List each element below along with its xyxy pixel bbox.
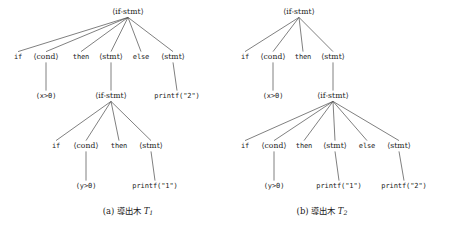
tree-node-t2-m6: ⟨if-stmt⟩ — [317, 92, 349, 100]
tree-node-t2-m7: if — [241, 143, 249, 150]
tree-node-t2-m4: ⟨stmt⟩ — [321, 53, 345, 61]
tree-node-t2-m12: ⟨stmt⟩ — [387, 142, 411, 150]
tree-edge — [333, 101, 399, 140]
tree-node-t2-m3: then — [295, 54, 311, 61]
tree-node-t2-m13: (y>0) — [264, 183, 285, 190]
tree-edge — [56, 101, 111, 140]
tree-node-t1-n9: printf("2") — [154, 93, 199, 100]
figure-caption-a: (a) 導出木 T1 — [103, 207, 153, 216]
tree-edge — [399, 151, 404, 180]
tree-node-t1-n5: else — [133, 54, 149, 61]
tree-node-t1-n10: if — [52, 143, 60, 150]
tree-edge — [245, 17, 299, 51]
tree-node-t2-m8: ⟨cond⟩ — [261, 142, 286, 150]
tree-node-t1-n6: ⟨stmt⟩ — [161, 53, 185, 61]
tree-edge — [245, 101, 333, 140]
tree-edge — [299, 17, 303, 51]
tree-edge — [111, 101, 151, 140]
tree-edge — [128, 17, 173, 51]
tree-node-t2-m0: ⟨if-stmt⟩ — [283, 8, 315, 16]
tree-edge — [111, 101, 119, 140]
tree-edge — [18, 17, 128, 51]
tree-node-t1-n12: then — [111, 143, 127, 150]
caption-prefix: (a) — [103, 206, 117, 216]
tree-node-t2-m10: ⟨stmt⟩ — [323, 142, 347, 150]
tree-edge — [86, 101, 111, 140]
tree-node-t2-m9: then — [296, 143, 312, 150]
tree-node-t1-n4: ⟨stmt⟩ — [99, 53, 123, 61]
tree-node-t1-n8: ⟨if-stmt⟩ — [95, 92, 127, 100]
tree-node-t2-m14: printf("1") — [316, 183, 361, 190]
tree-node-t1-n7: (x>0) — [36, 93, 57, 100]
tree-node-t1-n3: then — [73, 54, 89, 61]
tree-node-t1-n13: ⟨stmt⟩ — [139, 142, 163, 150]
caption-text: 導出木 — [311, 206, 338, 216]
caption-subscript: 2 — [343, 209, 347, 216]
tree-edge — [335, 151, 339, 180]
tree-edge — [128, 17, 141, 51]
caption-prefix: (b) — [297, 206, 312, 216]
tree-node-t2-m5: (x>0) — [263, 93, 284, 100]
figure-caption-b: (b) 導出木 T2 — [297, 207, 348, 216]
tree-node-t1-n15: printf("1") — [132, 183, 177, 190]
tree-edge — [333, 101, 335, 140]
caption-subscript: 1 — [149, 209, 153, 216]
tree-edge — [111, 17, 128, 51]
tree-edge — [304, 101, 333, 140]
tree-node-t2-m11: else — [359, 143, 375, 150]
tree-edge — [273, 17, 299, 51]
tree-node-t1-n2: ⟨cond⟩ — [33, 53, 58, 61]
tree-edge — [333, 101, 367, 140]
tree-edge — [274, 101, 333, 140]
tree-node-t2-m1: if — [241, 54, 249, 61]
tree-node-t1-n11: ⟨cond⟩ — [73, 142, 98, 150]
tree-node-t2-m2: ⟨cond⟩ — [260, 53, 285, 61]
derivation-tree-figure: ⟨if-stmt⟩if⟨cond⟩then⟨stmt⟩else⟨stmt⟩(x>… — [0, 0, 454, 231]
tree-edges-layer — [0, 0, 454, 231]
tree-node-t2-m15: printf("2") — [381, 183, 426, 190]
caption-text: 導出木 — [117, 206, 144, 216]
tree-edge — [173, 62, 177, 90]
tree-edge — [151, 151, 155, 180]
tree-node-t1-n1: if — [14, 54, 22, 61]
tree-edge — [81, 17, 128, 51]
tree-edge — [46, 17, 128, 51]
tree-node-t1-n0: ⟨if-stmt⟩ — [112, 8, 144, 16]
tree-node-t1-n14: (y>0) — [76, 183, 97, 190]
tree-edge — [299, 17, 333, 51]
